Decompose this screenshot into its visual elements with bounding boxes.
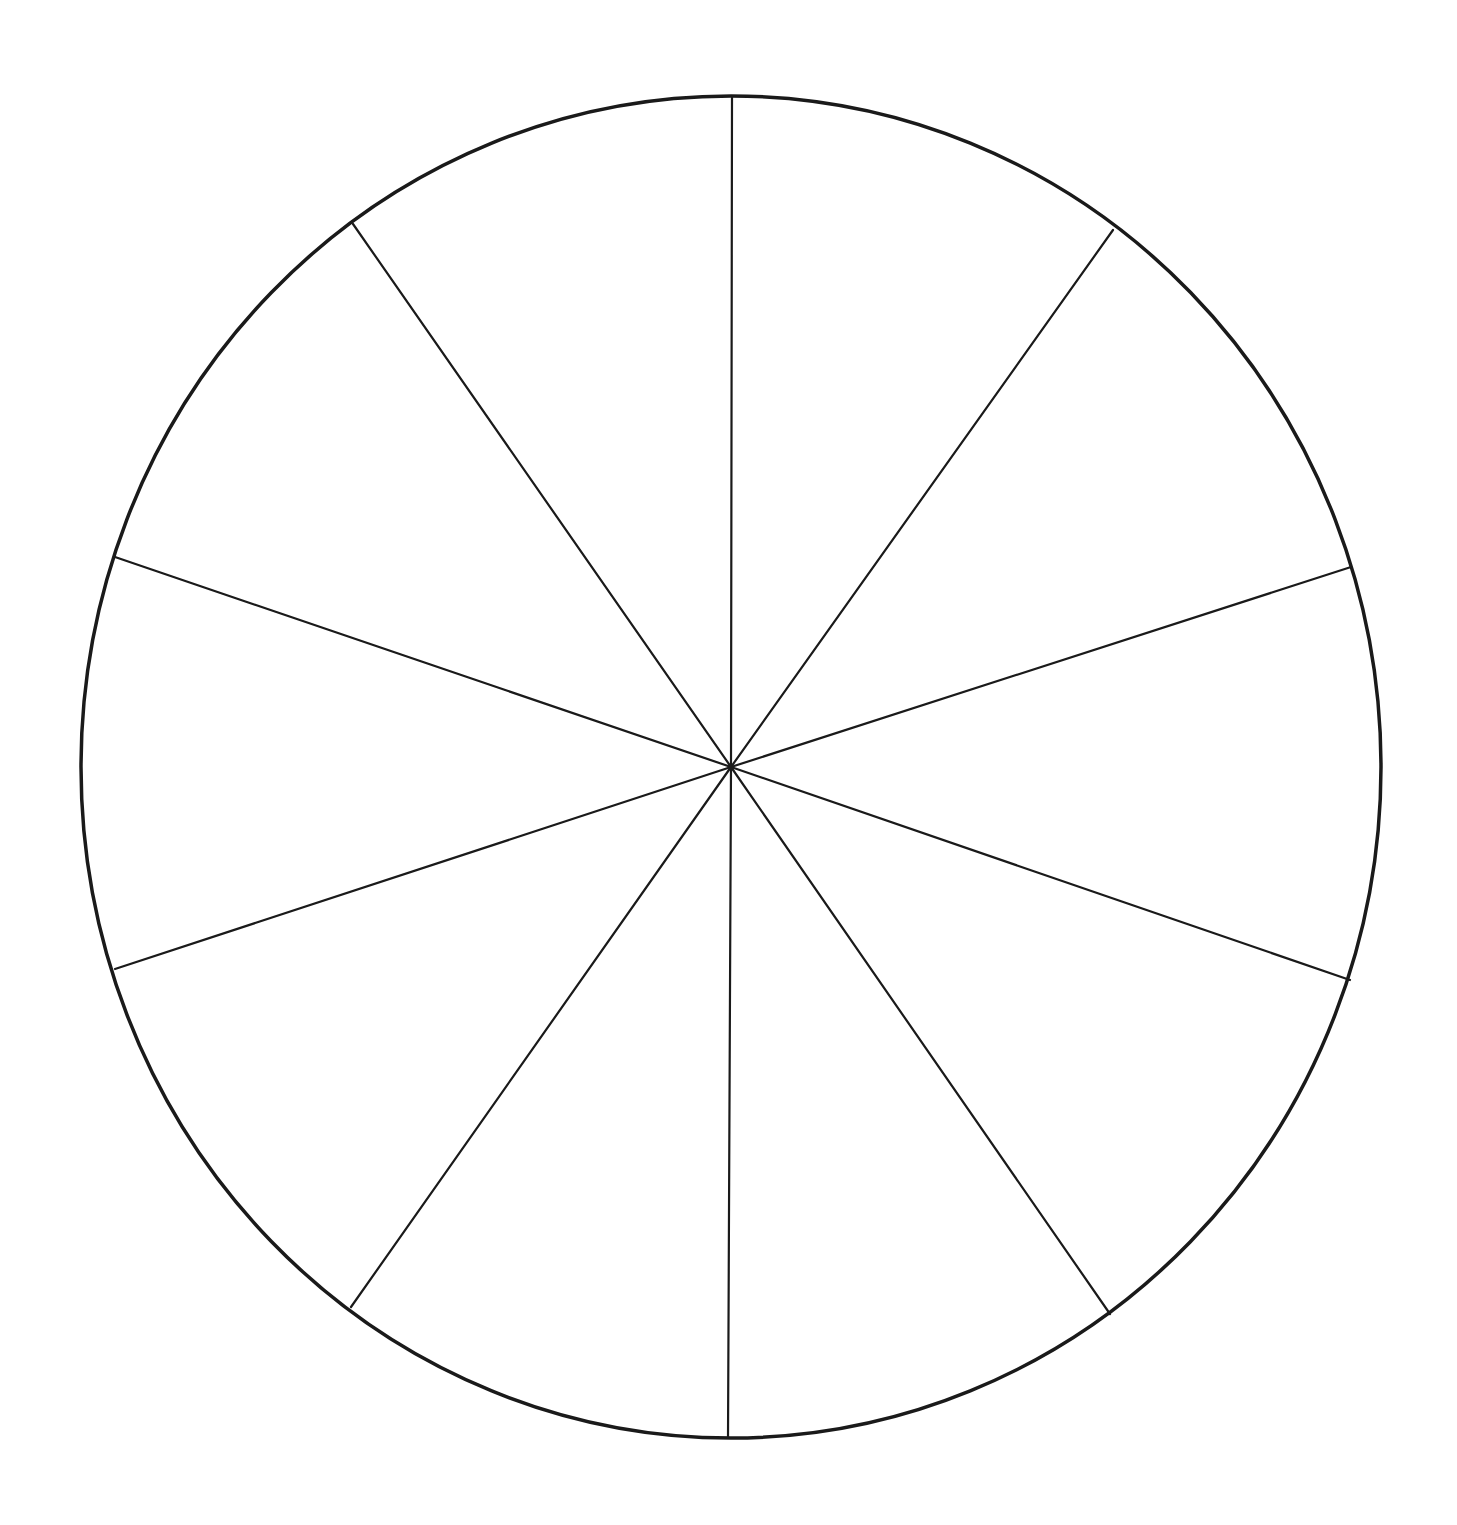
spoke-top <box>731 96 732 767</box>
wheel-center-hub <box>729 765 734 770</box>
segmented-wheel-diagram <box>0 0 1457 1525</box>
